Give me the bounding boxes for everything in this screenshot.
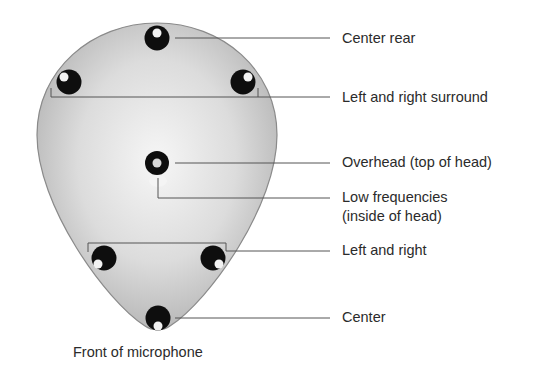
label-left-and-right: Left and right <box>342 242 427 259</box>
label-low-frequencies-line1: Low frequencies <box>342 189 448 206</box>
label-left-right-surround: Left and right surround <box>342 89 488 106</box>
capsule-overhead <box>145 151 169 175</box>
capsule-center-rear <box>145 26 170 51</box>
label-center: Center <box>342 309 386 326</box>
capsule-left-front <box>92 246 117 271</box>
capsule-right-surround <box>231 70 256 95</box>
label-overhead: Overhead (top of head) <box>342 154 492 171</box>
microphone-diagram <box>0 0 557 376</box>
label-low-frequencies-line2: (inside of head) <box>342 208 442 225</box>
capsule-center-front <box>146 306 171 331</box>
caption-front-of-microphone: Front of microphone <box>73 344 203 360</box>
capsule-right-front <box>201 246 226 271</box>
label-center-rear: Center rear <box>342 30 415 47</box>
capsule-left-surround <box>57 70 82 95</box>
